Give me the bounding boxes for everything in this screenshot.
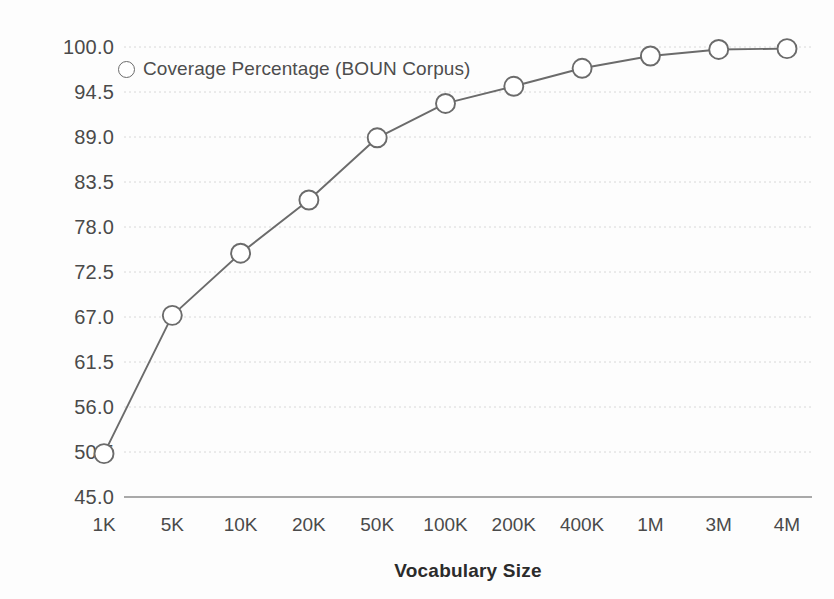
- x-tick-label: 20K: [292, 515, 326, 534]
- x-tick-label: 3M: [705, 515, 731, 534]
- x-tick-label: 50K: [360, 515, 394, 534]
- legend-item-label: Coverage Percentage (BOUN Corpus): [143, 58, 471, 80]
- x-tick-label: 400K: [560, 515, 604, 534]
- x-tick-label: 200K: [492, 515, 536, 534]
- x-tick-label: 1M: [637, 515, 663, 534]
- x-tick-label: 100K: [423, 515, 467, 534]
- chart-legend: Coverage Percentage (BOUN Corpus): [118, 58, 471, 80]
- x-tick-label: 10K: [224, 515, 258, 534]
- x-tick-label: 5K: [161, 515, 184, 534]
- legend-open-circle-icon: [118, 61, 135, 78]
- x-axis-tick-labels: 1K5K10K20K50K100K200K400K1M3M4M: [0, 0, 834, 599]
- x-axis-title: Vocabulary Size: [118, 560, 818, 582]
- chart-figure: 45.050.556.061.567.072.578.083.589.094.5…: [0, 0, 834, 599]
- x-tick-label: 4M: [774, 515, 800, 534]
- x-tick-label: 1K: [92, 515, 115, 534]
